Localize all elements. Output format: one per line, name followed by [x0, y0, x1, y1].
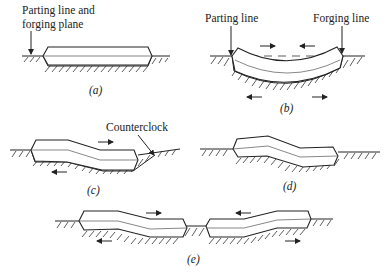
caption-b: (b) — [280, 102, 294, 115]
label-parting-line-forging-plane-2: forging plane — [22, 18, 83, 31]
arrow-counterclock-c — [138, 135, 154, 155]
caption-a: (a) — [89, 84, 103, 97]
label-parting-line-b: Parting line — [205, 12, 258, 25]
panel-b: Parting line Forging line (b) — [205, 12, 369, 115]
label-counterclock-c: Counterclock — [106, 121, 168, 133]
panel-a: Parting line and forging plane (a) — [22, 4, 170, 97]
forging-diagram: Parting line and forging plane (a) Parti… — [0, 0, 387, 276]
label-parting-line-forging-plane-1: Parting line and — [22, 4, 95, 17]
forging-block-d — [233, 136, 338, 167]
panel-d: (d) — [200, 136, 380, 193]
label-forging-line-b: Forging line — [313, 12, 369, 25]
caption-e: (e) — [187, 253, 200, 266]
forging-block-left-e — [79, 211, 187, 237]
caption-d: (d) — [283, 180, 297, 193]
panel-e: (e) — [55, 211, 333, 266]
caption-c: (c) — [87, 184, 100, 197]
forging-block-right-e — [206, 211, 311, 237]
panel-c: Counterclock (c) — [10, 121, 180, 197]
